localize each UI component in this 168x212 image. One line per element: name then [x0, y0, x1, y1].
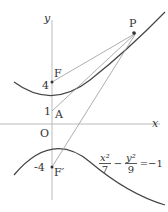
x-axis-label: x	[152, 118, 158, 129]
point-P-label: P	[129, 18, 136, 29]
tick-1: 1	[44, 106, 51, 117]
segment-PF	[52, 33, 136, 82]
segment-PF-prime	[52, 33, 136, 167]
point-A-label: A	[55, 109, 63, 120]
hyperbola-equation: x² 7 − y² 9 =−1	[98, 152, 165, 175]
x-fraction: x² 7	[99, 152, 111, 175]
tick-minus-4: -4	[34, 162, 45, 173]
origin-label: O	[40, 128, 49, 139]
point-F-prime-label: F′	[54, 167, 64, 178]
point-F	[51, 81, 54, 84]
hyperbola-diagram	[0, 0, 168, 212]
tick-4: 4	[42, 80, 49, 91]
point-P	[132, 31, 136, 35]
y-axis-label: y	[44, 13, 50, 24]
y-fraction: y² 9	[125, 152, 137, 175]
point-F-label: F	[54, 68, 62, 79]
hyperbola-upper-branch	[14, 12, 165, 96]
